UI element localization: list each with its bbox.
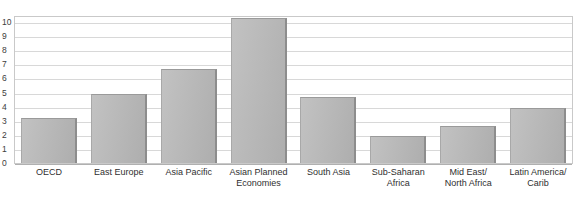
y-tick-label-9: 9 bbox=[0, 32, 14, 40]
y-tick-label-2: 2 bbox=[0, 131, 14, 139]
x-axis-label: East Europe bbox=[84, 167, 154, 178]
x-axis-label-line: Carib bbox=[503, 178, 573, 189]
x-axis-label-line: Asian Planned bbox=[224, 167, 294, 178]
y-tick-label-0: 0 bbox=[0, 159, 14, 167]
y-tick-label-3: 3 bbox=[0, 117, 14, 125]
y-tick-label-10: 10 bbox=[0, 18, 14, 26]
x-axis-labels: OECDEast EuropeAsia PacificAsian Planned… bbox=[14, 167, 573, 197]
bar bbox=[231, 18, 287, 163]
x-axis-label: Asia Pacific bbox=[154, 167, 224, 178]
gridline-0 bbox=[15, 164, 572, 165]
bar-series bbox=[14, 16, 573, 164]
y-tick-label-7: 7 bbox=[0, 60, 14, 68]
bar bbox=[161, 69, 217, 163]
y-tick-label-4: 4 bbox=[0, 103, 14, 111]
bar bbox=[300, 97, 356, 163]
x-axis-label: Mid East/North Africa bbox=[433, 167, 503, 188]
x-axis-label: Latin America/Carib bbox=[503, 167, 573, 188]
y-tick-label-5: 5 bbox=[0, 89, 14, 97]
bar bbox=[91, 94, 147, 163]
y-tick-label-6: 6 bbox=[0, 74, 14, 82]
bar bbox=[510, 108, 566, 163]
bar bbox=[440, 126, 496, 163]
x-axis-label-line: Africa bbox=[363, 178, 433, 189]
x-axis-label-line: Economies bbox=[224, 178, 294, 189]
bar bbox=[21, 118, 77, 163]
bar-fill bbox=[162, 70, 215, 163]
x-axis-label-line: Asia Pacific bbox=[154, 167, 224, 178]
bar-fill bbox=[22, 119, 75, 163]
y-tick-label-1: 1 bbox=[0, 145, 14, 153]
x-axis-label: OECD bbox=[14, 167, 84, 178]
x-axis-label-line: Sub-Saharan bbox=[363, 167, 433, 178]
y-axis: 109876543210 bbox=[0, 16, 14, 164]
y-tick-label-8: 8 bbox=[0, 46, 14, 54]
bar-fill bbox=[441, 127, 494, 163]
x-axis-label-line: Mid East/ bbox=[433, 167, 503, 178]
bar bbox=[370, 136, 426, 163]
x-axis-label-line: OECD bbox=[14, 167, 84, 178]
x-axis-label: Asian PlannedEconomies bbox=[224, 167, 294, 188]
bar-fill bbox=[92, 95, 145, 163]
x-axis-label-line: South Asia bbox=[294, 167, 364, 178]
x-axis-label-line: North Africa bbox=[433, 178, 503, 189]
x-axis-label: South Asia bbox=[294, 167, 364, 178]
x-axis-label-line: Latin America/ bbox=[503, 167, 573, 178]
bar-fill bbox=[301, 98, 354, 163]
bar-fill bbox=[232, 19, 285, 163]
x-axis-label: Sub-SaharanAfrica bbox=[363, 167, 433, 188]
bar-fill bbox=[371, 137, 424, 163]
x-axis-label-line: East Europe bbox=[84, 167, 154, 178]
bar-fill bbox=[511, 109, 564, 163]
